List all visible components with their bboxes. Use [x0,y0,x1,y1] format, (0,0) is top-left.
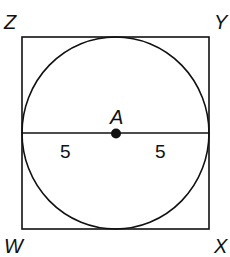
vertex-label-x: X [213,235,228,257]
vertex-label-y: Y [214,11,229,33]
vertex-label-z: Z [3,11,17,33]
center-point [111,129,121,139]
center-label-a: A [109,106,123,128]
segment-label-right: 5 [155,141,166,162]
segment-label-left: 5 [60,141,71,162]
geometry-diagram: Z Y W X A 5 5 [0,0,230,257]
vertex-label-w: W [4,235,25,257]
